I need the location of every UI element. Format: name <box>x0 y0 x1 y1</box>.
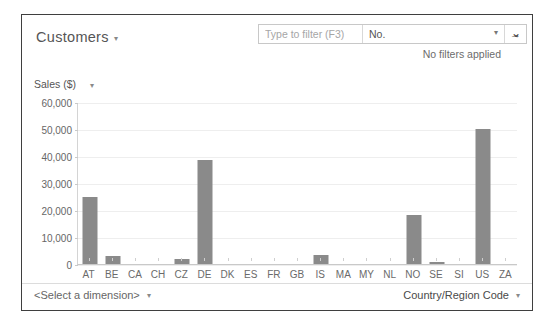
y-tick-label: 40,000 <box>41 152 72 163</box>
chart-plot-wrapper: 60,00050,00040,00030,00020,00010,0000 AT… <box>22 95 534 285</box>
x-tick-label: IS <box>315 269 324 280</box>
measure-select[interactable]: Country/Region Code ▾ <box>403 289 520 301</box>
bar-slot <box>449 103 472 264</box>
x-tick-mark <box>366 258 367 261</box>
card-footer: <Select a dimension> ▾ Country/Region Co… <box>22 283 532 310</box>
y-tick-label: 60,000 <box>41 98 72 109</box>
gridline <box>78 265 517 266</box>
bar-slot <box>217 103 240 264</box>
expand-chevron-down-icon[interactable]: ⌄ <box>511 25 521 41</box>
bar-slot <box>310 103 333 264</box>
x-tick-mark <box>135 258 136 261</box>
card-header: Customers ▾ No. ▾ → ⌄ No filters applied <box>22 15 532 71</box>
x-tick-label: FR <box>267 269 280 280</box>
customers-chart-card: Customers ▾ No. ▾ → ⌄ No filters applied… <box>21 14 533 311</box>
x-tick-mark <box>320 258 321 261</box>
bar-series <box>78 103 517 264</box>
x-tick-label: ES <box>244 269 257 280</box>
x-tick-label: NL <box>383 269 396 280</box>
x-tick-mark <box>112 258 113 261</box>
y-axis-dropdown-caret-icon[interactable]: ▾ <box>90 81 94 90</box>
filter-field-value: No. <box>363 28 385 40</box>
x-tick-label: ZA <box>499 269 512 280</box>
x-tick-label: GB <box>290 269 304 280</box>
filter-bar: No. ▾ → <box>258 24 527 44</box>
filter-status-text: No filters applied <box>423 48 501 60</box>
bar[interactable] <box>105 256 120 264</box>
x-tick-mark <box>482 258 483 261</box>
dimension-label: <Select a dimension> <box>34 289 140 301</box>
x-tick-label: DK <box>221 269 235 280</box>
chevron-down-icon: ▾ <box>494 28 498 37</box>
bar-slot <box>263 103 286 264</box>
x-tick-label: BE <box>105 269 118 280</box>
x-tick-label: DE <box>197 269 211 280</box>
x-tick-mark <box>343 258 344 261</box>
measure-label: Country/Region Code <box>403 289 509 301</box>
title-dropdown-caret-icon[interactable]: ▾ <box>114 34 118 43</box>
bar-slot <box>240 103 263 264</box>
x-tick-label: CA <box>128 269 142 280</box>
x-tick-mark <box>436 258 437 261</box>
dimension-select[interactable]: <Select a dimension> ▾ <box>34 289 151 301</box>
bar-slot <box>286 103 309 264</box>
y-tick-label: 0 <box>66 260 72 271</box>
chevron-down-icon: ▾ <box>516 291 520 300</box>
x-tick-mark <box>228 258 229 261</box>
x-tick-label: CH <box>151 269 165 280</box>
x-tick-label: US <box>475 269 489 280</box>
chart-plot-area <box>77 103 517 265</box>
bar-slot <box>356 103 379 264</box>
y-tick-label: 10,000 <box>41 233 72 244</box>
x-tick-mark <box>413 258 414 261</box>
x-tick-mark <box>505 258 506 261</box>
x-tick-label: MY <box>359 269 374 280</box>
bar-slot <box>495 103 518 264</box>
x-tick-mark <box>181 258 182 261</box>
y-axis-title: Sales ($) <box>34 78 76 90</box>
x-tick-mark <box>158 258 159 261</box>
x-tick-mark <box>204 258 205 261</box>
x-tick-mark <box>89 258 90 261</box>
y-tick-label: 20,000 <box>41 206 72 217</box>
x-tick-mark <box>390 258 391 261</box>
bar-slot <box>171 103 194 264</box>
bar-slot <box>472 103 495 264</box>
bar[interactable] <box>198 160 213 264</box>
x-tick-label: NO <box>405 269 420 280</box>
bar-slot <box>78 103 101 264</box>
x-tick-label: CZ <box>175 269 188 280</box>
y-tick-mark <box>75 265 78 266</box>
x-tick-mark <box>251 258 252 261</box>
bar[interactable] <box>406 215 421 264</box>
bar-slot <box>147 103 170 264</box>
x-tick-label: SI <box>454 269 463 280</box>
y-tick-label: 30,000 <box>41 179 72 190</box>
bar[interactable] <box>175 259 190 264</box>
bar-slot <box>333 103 356 264</box>
filter-field-select[interactable]: No. ▾ <box>362 25 504 43</box>
chevron-down-icon: ▾ <box>147 291 151 300</box>
x-tick-label: MA <box>336 269 351 280</box>
page-title: Customers <box>36 29 109 45</box>
y-tick-label: 50,000 <box>41 125 72 136</box>
bar-slot <box>101 103 124 264</box>
bar[interactable] <box>314 255 329 264</box>
bar[interactable] <box>82 197 97 265</box>
bar-slot <box>194 103 217 264</box>
x-tick-label: SE <box>429 269 442 280</box>
bar-slot <box>379 103 402 264</box>
bar-slot <box>124 103 147 264</box>
bar[interactable] <box>429 262 444 264</box>
search-input[interactable] <box>259 25 362 43</box>
x-tick-mark <box>274 258 275 261</box>
x-tick-label: AT <box>83 269 95 280</box>
bar-slot <box>425 103 448 264</box>
x-tick-mark <box>459 258 460 261</box>
x-tick-mark <box>297 258 298 261</box>
bar-slot <box>402 103 425 264</box>
bar[interactable] <box>476 129 491 264</box>
